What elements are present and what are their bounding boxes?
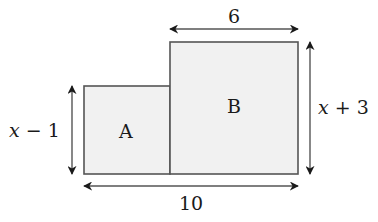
right-height-var: x (318, 96, 329, 118)
right-height-rest: + 3 (329, 96, 369, 118)
left-height-var: x (9, 119, 20, 141)
right-height-label: x + 3 (318, 98, 369, 117)
label-b: B (227, 97, 241, 116)
label-a: A (119, 122, 133, 141)
bottom-width-label: 10 (179, 194, 203, 213)
top-width-label: 6 (228, 7, 240, 26)
left-height-label: x − 1 (9, 121, 60, 140)
left-height-rest: − 1 (20, 119, 60, 141)
